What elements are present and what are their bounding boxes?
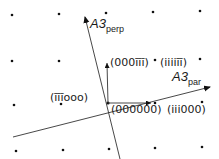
point-label-origin: (000000) — [111, 103, 162, 116]
par-axis-label: A3par — [171, 69, 201, 87]
point-label-left: (īīīooo) — [50, 91, 88, 104]
perp-axis-label: A3perp — [89, 16, 124, 34]
lattice-projection-diagram: A3perp A3par (000īīī) (iiiiīī) (īīīooo) … — [0, 0, 219, 159]
basis-vector-up — [107, 63, 108, 103]
point-label-up-right: (iiiiīī) — [160, 56, 187, 69]
perp-axis — [85, 17, 120, 159]
point-label-right: (iii000) — [167, 103, 206, 116]
point-label-up: (000īīī) — [110, 56, 149, 69]
